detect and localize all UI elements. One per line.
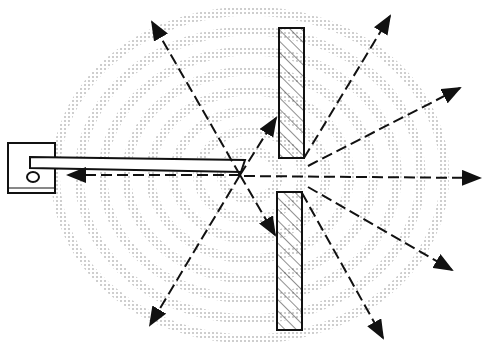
ray-arrow bbox=[240, 118, 276, 175]
barrier-top bbox=[279, 28, 304, 158]
ray-arrow bbox=[240, 175, 275, 235]
diagram-canvas bbox=[0, 0, 490, 347]
barrier-bottom bbox=[277, 192, 302, 330]
wave-ring bbox=[150, 91, 350, 259]
wave-ring bbox=[127, 71, 374, 279]
wave-ring bbox=[55, 11, 445, 339]
wave-fronts bbox=[55, 11, 445, 339]
diffraction-diagram bbox=[0, 0, 490, 347]
